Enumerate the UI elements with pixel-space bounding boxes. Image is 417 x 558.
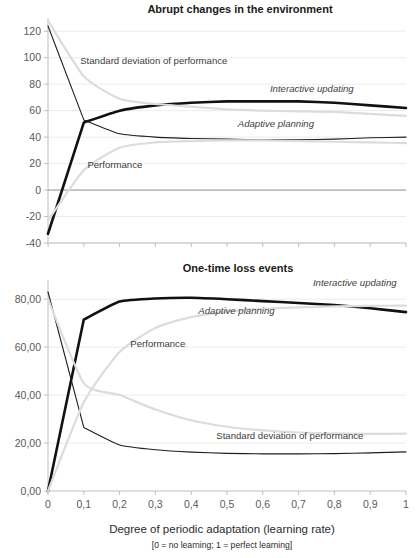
y-axis-tick-label: -40	[26, 237, 41, 249]
x-axis-tick-label: 0,2	[112, 498, 127, 510]
x-axis-title: Degree of periodic adaptation (learning …	[109, 523, 335, 535]
series-group	[48, 292, 406, 491]
chart-panel-one-time-loss: Interactive updatingAdaptive planningPer…	[0, 258, 417, 558]
x-axis-tick-label: 0,1	[76, 498, 91, 510]
y-axis-tick-label: 60	[29, 104, 41, 116]
x-axis-subtitle: [0 = no learning; 1 = perfect learning]	[152, 540, 292, 550]
y-axis-tick-label: -20	[26, 210, 41, 222]
y-axis-tick-label: 0	[35, 184, 41, 196]
x-axis-tick-label: 0,7	[291, 498, 306, 510]
y-axis-tick-label: 0,00	[21, 485, 42, 497]
y-axis-tick-label: 40,00	[15, 389, 41, 401]
series-annotation-adaptive-planning: Adaptive planning	[237, 118, 315, 129]
tick-labels-group: 80,0060,0040,0020,000,0000,10,20,30,40,5…	[15, 293, 409, 510]
series-annotation-interactive-updating: Interactive updating	[313, 277, 397, 288]
series-curve-performance	[48, 306, 406, 491]
series-curve-performance	[48, 140, 406, 220]
chart-svg-top: Interactive updatingAdaptive planningSta…	[0, 0, 417, 262]
series-group	[48, 21, 406, 234]
x-axis-tick-label: 0	[45, 498, 51, 510]
x-axis-tick-label: 0,4	[184, 498, 199, 510]
chart-title: One-time loss events	[183, 262, 294, 274]
series-annotation-interactive-updating: Interactive updating	[270, 83, 354, 94]
x-axis-tick-label: 0,8	[327, 498, 342, 510]
series-curve-standard-deviation-of-performance	[48, 299, 406, 434]
y-axis-tick-label: 60,00	[15, 341, 41, 353]
tick-labels-group: 120100806040200-20-40	[23, 25, 41, 249]
y-axis-tick-label: 20,00	[15, 437, 41, 449]
gridlines-group	[48, 299, 406, 443]
x-axis-tick-label: 0,6	[255, 498, 270, 510]
chart-title: Abrupt changes in the environment	[147, 3, 333, 15]
series-annotation-standard-deviation-of-performance: Standard deviation of performance	[80, 55, 227, 66]
series-annotation-standard-deviation-of-performance: Standard deviation of performance	[216, 430, 363, 441]
figure-container: Interactive updatingAdaptive planningSta…	[0, 0, 417, 558]
y-axis-tick-label: 40	[29, 131, 41, 143]
y-axis-tick-label: 80,00	[15, 293, 41, 305]
series-curve-interactive-updating	[48, 298, 406, 491]
x-axis-tick-label: 1	[403, 498, 409, 510]
x-axis-tick-label: 0,9	[363, 498, 378, 510]
series-annotation-performance: Performance	[87, 159, 142, 170]
y-axis-tick-label: 100	[23, 51, 41, 63]
y-axis-tick-label: 20	[29, 157, 41, 169]
chart-panel-abrupt-changes: Interactive updatingAdaptive planningSta…	[0, 0, 417, 262]
chart-svg-bottom: Interactive updatingAdaptive planningPer…	[0, 258, 417, 558]
x-axis-tick-label: 0,3	[148, 498, 163, 510]
y-axis-tick-label: 120	[23, 25, 41, 37]
x-axis-tick-label: 0,5	[220, 498, 235, 510]
axes-group	[44, 18, 406, 247]
series-annotation-adaptive-planning: Adaptive planning	[197, 305, 275, 316]
y-axis-tick-label: 80	[29, 78, 41, 90]
series-annotation-performance: Performance	[130, 338, 185, 349]
